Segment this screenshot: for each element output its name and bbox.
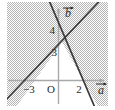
x-tick-label-neg3: −3 <box>23 83 35 95</box>
x-axis-label: a <box>98 83 104 97</box>
y-tick-label-3: 3 <box>52 46 58 58</box>
y-tick-label-4: 4 <box>50 24 56 36</box>
x-tick-label-origin: O <box>47 83 55 95</box>
shaded-region <box>7 2 108 106</box>
coordinate-plot: −3 O 2 4 3 a b <box>0 0 115 110</box>
graph-figure: −3 O 2 4 3 a b <box>0 0 115 110</box>
x-tick-label-2: 2 <box>76 83 82 95</box>
